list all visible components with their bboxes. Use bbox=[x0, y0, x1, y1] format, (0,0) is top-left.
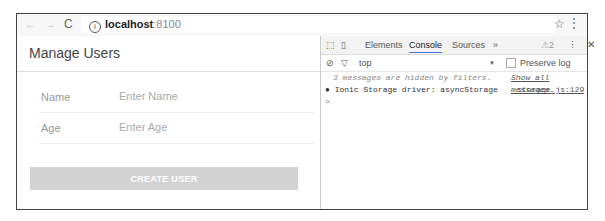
context-select[interactable]: top bbox=[359, 58, 372, 68]
back-icon[interactable]: ← bbox=[25, 18, 36, 30]
devtools-panel: ⬚ ▯ Elements Console Sources » ⚠2 ⋮ ✕ ⊘ … bbox=[320, 36, 587, 209]
context-dropdown-icon[interactable]: ▼ bbox=[489, 60, 495, 66]
age-label: Age bbox=[41, 113, 61, 143]
devtools-tabbar: ⬚ ▯ Elements Console Sources » ⚠2 ⋮ ✕ bbox=[321, 36, 587, 55]
console-prompt[interactable]: > bbox=[321, 96, 587, 108]
hidden-messages-line: 3 messages are hidden by filters. Show a… bbox=[321, 72, 587, 84]
browser-window: ← → C ilocalhost:8100 ☆ ⋮ Manage Users N… bbox=[16, 13, 588, 210]
console-log-line: ● Ionic Storage driver: asyncStorage sto… bbox=[321, 84, 587, 96]
url-host: localhost bbox=[105, 18, 153, 30]
warning-badge[interactable]: ⚠2 bbox=[541, 40, 554, 50]
preserve-log-checkbox[interactable] bbox=[506, 58, 516, 69]
name-input[interactable] bbox=[117, 89, 301, 103]
forward-icon[interactable]: → bbox=[45, 18, 56, 30]
preserve-log-label: Preserve log bbox=[520, 58, 571, 68]
log-message: Ionic Storage driver: asyncStorage bbox=[335, 85, 498, 94]
warning-count: 2 bbox=[549, 40, 554, 50]
bookmark-star-icon[interactable]: ☆ bbox=[554, 17, 565, 31]
info-dot-icon: ● bbox=[325, 85, 330, 94]
console-output: 3 messages are hidden by filters. Show a… bbox=[321, 72, 587, 108]
log-source-link[interactable]: storage.js:129 bbox=[517, 84, 584, 96]
device-toolbar-icon[interactable]: ▯ bbox=[341, 40, 346, 50]
name-field-row: Name bbox=[39, 82, 314, 113]
devtools-menu-icon[interactable]: ⋮ bbox=[568, 40, 577, 50]
age-field-row: Age bbox=[39, 113, 314, 144]
address-bar[interactable]: ilocalhost:8100 bbox=[81, 16, 556, 33]
page-title: Manage Users bbox=[17, 36, 320, 72]
hidden-messages-text: 3 messages are hidden by filters. bbox=[333, 73, 491, 82]
tab-elements[interactable]: Elements bbox=[365, 40, 403, 50]
create-user-button[interactable]: CREATE USER bbox=[30, 167, 298, 190]
clear-console-icon[interactable]: ⊘ bbox=[326, 58, 334, 68]
browser-toolbar: ← → C ilocalhost:8100 ☆ ⋮ bbox=[17, 14, 587, 37]
filter-icon[interactable]: ▽ bbox=[341, 58, 348, 68]
age-input[interactable] bbox=[117, 120, 301, 134]
url-port: :8100 bbox=[153, 18, 181, 30]
browser-menu-icon[interactable]: ⋮ bbox=[568, 16, 580, 30]
info-icon[interactable]: i bbox=[89, 21, 101, 33]
more-tabs-icon[interactable]: » bbox=[493, 40, 498, 50]
inspect-element-icon[interactable]: ⬚ bbox=[326, 40, 335, 50]
close-devtools-icon[interactable]: ✕ bbox=[587, 39, 595, 50]
tab-sources[interactable]: Sources bbox=[452, 40, 485, 50]
reload-icon[interactable]: C bbox=[64, 17, 73, 31]
console-filter-bar: ⊘ ▽ top ▼ Preserve log bbox=[321, 55, 587, 72]
app-pane: Manage Users Name Age CREATE USER bbox=[17, 36, 320, 209]
tab-console[interactable]: Console bbox=[409, 40, 442, 53]
name-label: Name bbox=[41, 82, 70, 112]
